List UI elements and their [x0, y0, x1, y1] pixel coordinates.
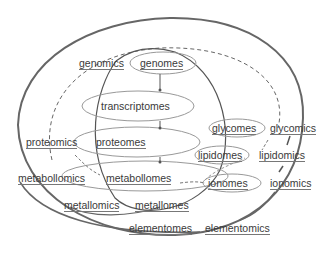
label-elementomes: elementomes — [129, 222, 192, 235]
label-metabollomics: metabollomics — [18, 172, 85, 185]
label-glycomes: glycomes — [212, 122, 256, 135]
label-genomes: genomes — [140, 57, 183, 70]
label-metallomics: metallomics — [64, 199, 119, 212]
label-proteomes: proteomes — [96, 136, 146, 149]
arrow-head-icon — [159, 89, 162, 92]
label-ionomics: ionomics — [270, 177, 311, 190]
label-metallomes: metallomes — [135, 199, 189, 212]
label-metabollomes: metabollomes — [106, 172, 171, 185]
label-ionomes: ionomes — [208, 177, 248, 190]
label-lipidomes: lipidomes — [198, 149, 242, 162]
label-lipidomics: lipidomics — [259, 149, 305, 162]
label-glycomics: glycomics — [270, 122, 316, 135]
label-genomics: genomics — [79, 57, 124, 70]
label-elementomics: elementomics — [205, 222, 270, 235]
label-proteomics: proteomics — [26, 136, 77, 149]
arrow-head-icon — [159, 127, 162, 130]
label-transcriptomes: transcriptomes — [101, 100, 170, 112]
arrow-head-icon — [159, 161, 162, 164]
